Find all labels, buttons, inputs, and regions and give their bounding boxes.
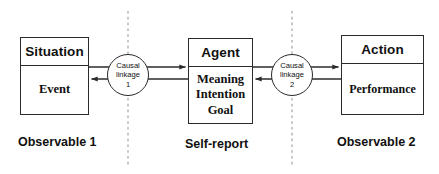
node-agent: Agent Meaning Intention Goal	[188, 38, 253, 124]
causal-linkage-2-line-1: Causal	[280, 61, 304, 70]
node-situation: Situation Event	[20, 37, 89, 115]
caption-self-report: Self-report	[185, 137, 248, 151]
node-agent-header: Agent	[189, 39, 252, 67]
diagram-canvas: Situation Event Agent Meaning Intention …	[0, 0, 439, 174]
node-action: Action Performance	[341, 35, 424, 115]
causal-linkage-2-line-2: linkage	[280, 70, 304, 79]
node-situation-body: Event	[21, 66, 88, 114]
causal-linkage-1-line-3: 1	[126, 80, 130, 89]
node-action-header: Action	[342, 36, 423, 64]
causal-linkage-2: Causal linkage 2	[271, 54, 313, 96]
node-agent-body-line-1: Meaning	[197, 72, 244, 87]
causal-linkage-2-line-3: 2	[290, 80, 294, 89]
node-agent-body: Meaning Intention Goal	[189, 67, 252, 123]
node-action-body-line-1: Performance	[349, 82, 416, 97]
node-situation-body-line-1: Event	[39, 82, 70, 97]
node-agent-body-line-2: Intention	[196, 87, 245, 102]
node-situation-header: Situation	[21, 38, 88, 66]
node-agent-body-line-3: Goal	[208, 103, 234, 118]
node-action-body: Performance	[342, 64, 423, 114]
causal-linkage-1-line-1: Causal	[116, 61, 140, 70]
causal-linkage-1-line-2: linkage	[116, 70, 140, 79]
caption-observable-1: Observable 1	[18, 135, 97, 149]
caption-observable-2: Observable 2	[337, 135, 416, 149]
causal-linkage-1: Causal linkage 1	[107, 54, 149, 96]
